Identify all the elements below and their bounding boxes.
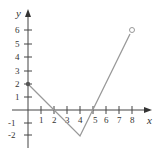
x-tick-label: 1	[39, 115, 44, 125]
y-tick-label: 6	[15, 25, 20, 35]
x-tick-label: 8	[130, 115, 135, 125]
x-tick-label: 2	[52, 115, 57, 125]
y-tick-label: 1	[15, 92, 20, 102]
x-tick-label: 4	[78, 115, 83, 125]
y-tick-label: 5	[15, 39, 20, 49]
x-axis-label: x	[146, 114, 152, 126]
open-endpoint-marker	[130, 28, 135, 33]
y-axis-label: y	[15, 7, 21, 19]
x-tick-label: 7	[117, 115, 122, 125]
y-tick-label: 3	[15, 66, 20, 76]
chart-canvas: x y 1 2 3 4 5 6 7 8 -2 -1 1 2 3 4	[0, 0, 158, 152]
x-tick-label: 6	[104, 115, 109, 125]
y-tick-label: 2	[15, 79, 20, 89]
closed-endpoint-marker	[26, 82, 30, 86]
y-tick-labels: -2 -1 1 2 3 4 5 6	[8, 25, 20, 140]
y-axis-arrow-icon	[25, 9, 31, 17]
y-tick-label: -1	[8, 118, 16, 128]
y-tick-label: -2	[8, 130, 16, 140]
y-tick-label: 4	[15, 52, 20, 62]
x-axis-arrow-icon	[144, 107, 152, 113]
x-tick-labels: 1 2 3 4 5 6 7 8	[39, 115, 135, 125]
x-tick-label: 5	[93, 115, 98, 125]
